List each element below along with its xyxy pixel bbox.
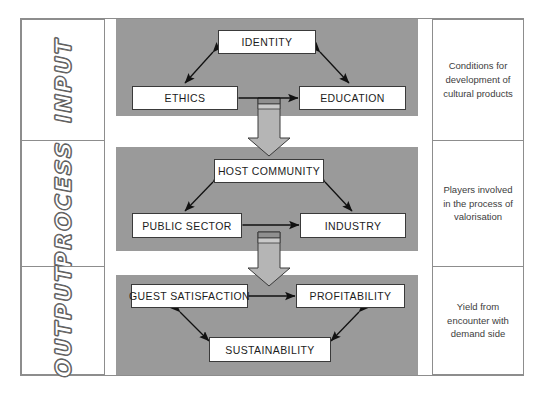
- node-education[interactable]: EDUCATION: [299, 86, 406, 110]
- node-public-sector[interactable]: PUBLIC SECTOR: [132, 213, 242, 238]
- description-output: Yield from encounter with demand side: [432, 266, 524, 375]
- stage-label-input-text: INPUT: [51, 37, 76, 123]
- node-sustainability[interactable]: SUSTAINABILITY: [209, 337, 331, 362]
- node-identity[interactable]: IDENTITY: [218, 30, 316, 54]
- description-process: Players involved in the process of valor…: [432, 140, 524, 267]
- stage-label-process: PROCESS: [21, 140, 105, 267]
- node-industry[interactable]: INDUSTRY: [300, 213, 406, 238]
- stage-label-process-text: PROCESS: [51, 140, 76, 268]
- description-input: Conditions for development of cultural p…: [432, 19, 524, 141]
- stage-label-input: INPUT: [21, 19, 105, 141]
- node-profitability[interactable]: PROFITABILITY: [296, 284, 405, 308]
- stage-label-output-text: OUTPUT: [51, 264, 76, 377]
- stage-label-output: OUTPUT: [21, 266, 105, 375]
- node-guest-satisfaction[interactable]: GUEST SATISFACTION: [131, 284, 248, 308]
- node-ethics[interactable]: ETHICS: [132, 86, 238, 110]
- node-host-community[interactable]: HOST COMMUNITY: [214, 159, 324, 183]
- diagram-canvas: INPUT PROCESS OUTPUT: [0, 0, 546, 398]
